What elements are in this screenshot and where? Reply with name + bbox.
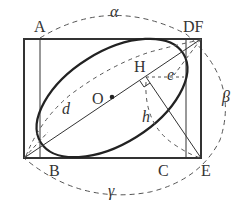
label-h: h: [142, 108, 150, 125]
geometry-diagram: A DF H O e d h B C E α β γ: [0, 0, 243, 217]
label-A: A: [34, 18, 46, 35]
label-O: O: [92, 90, 104, 107]
label-alpha: α: [110, 3, 119, 20]
label-e: e: [167, 66, 174, 83]
label-DF: DF: [183, 18, 204, 35]
label-C: C: [158, 162, 169, 179]
label-beta: β: [221, 88, 230, 106]
label-H: H: [134, 58, 146, 75]
label-gamma: γ: [108, 182, 115, 200]
label-E: E: [201, 162, 211, 179]
center-point-O: [110, 95, 115, 100]
label-d: d: [62, 100, 71, 117]
dashed-diag-left: [24, 132, 48, 158]
perpendicular-HE: [146, 77, 201, 158]
label-B: B: [49, 162, 60, 179]
right-angle-marker: [140, 81, 150, 87]
